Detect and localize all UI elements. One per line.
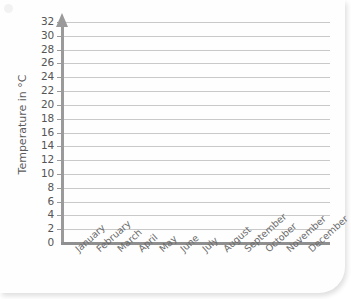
- y-axis-tick: [57, 50, 64, 51]
- gridline: [63, 22, 330, 23]
- gridline: [63, 160, 330, 161]
- y-axis-tick-label: 0: [30, 236, 54, 248]
- gridline: [63, 63, 330, 64]
- y-axis-tick: [57, 133, 64, 134]
- y-axis-tick: [57, 105, 64, 106]
- x-axis-category-labels: JanuaryFebruaryMarchAprilMayJuneJulyAugu…: [63, 246, 330, 299]
- y-axis-tick: [57, 160, 64, 161]
- y-axis-arrow-icon: [56, 13, 68, 27]
- gridline: [63, 133, 330, 134]
- gridline: [63, 105, 330, 106]
- y-axis-tick: [57, 22, 64, 23]
- y-axis-tick-label: 4: [30, 208, 54, 220]
- y-axis-tick-label: 12: [30, 153, 54, 165]
- gridline: [63, 119, 330, 120]
- y-axis-tick-label: 10: [30, 167, 54, 179]
- y-axis-tick-label: 28: [30, 43, 54, 55]
- gridline: [63, 50, 330, 51]
- gridline: [63, 188, 330, 189]
- gridline: [63, 215, 330, 216]
- plot-area: [63, 22, 330, 243]
- y-axis-tick-label: 14: [30, 139, 54, 151]
- y-axis-tick: [57, 202, 64, 203]
- y-axis-title: Temperature in °C: [16, 60, 29, 190]
- y-axis-tick-label: 32: [30, 15, 54, 27]
- y-axis-tick-label: 6: [30, 195, 54, 207]
- y-axis-tick-label: 8: [30, 181, 54, 193]
- page-speck-artifact: [4, 4, 13, 13]
- y-axis-tick: [57, 146, 64, 147]
- y-axis-tick: [57, 229, 64, 230]
- y-axis-tick-label: 26: [30, 56, 54, 68]
- y-axis-tick: [57, 119, 64, 120]
- gridline: [63, 174, 330, 175]
- y-axis-tick-label: 16: [30, 126, 54, 138]
- y-axis-tick: [57, 188, 64, 189]
- y-axis-tick-label: 30: [30, 29, 54, 41]
- gridline: [63, 91, 330, 92]
- y-axis-tick: [57, 91, 64, 92]
- y-axis-tick: [57, 215, 64, 216]
- y-axis-tick: [57, 36, 64, 37]
- y-axis-line: [61, 26, 64, 245]
- y-axis-tick: [57, 174, 64, 175]
- y-axis-tick-labels: 32302826242220181614121086420: [28, 0, 54, 299]
- y-axis-tick: [57, 77, 64, 78]
- gridline: [63, 202, 330, 203]
- y-axis-tick-label: 22: [30, 84, 54, 96]
- y-axis-tick-label: 20: [30, 98, 54, 110]
- y-axis-tick-label: 24: [30, 70, 54, 82]
- chart-page: 32302826242220181614121086420 Temperatur…: [0, 0, 351, 299]
- gridline: [63, 36, 330, 37]
- gridline: [63, 77, 330, 78]
- gridline: [63, 146, 330, 147]
- y-axis-tick: [57, 63, 64, 64]
- y-axis-tick-label: 18: [30, 112, 54, 124]
- y-axis-tick-label: 2: [30, 222, 54, 234]
